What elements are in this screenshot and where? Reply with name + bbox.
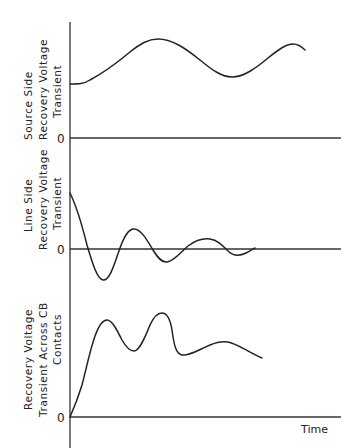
across-cb-curve	[70, 313, 262, 417]
cb-ylabel-line3: Contacts	[51, 314, 63, 365]
line-ylabel-line1: Line Side	[22, 179, 34, 232]
source-zero-label: 0	[57, 132, 65, 146]
source-ylabel-line1: Source Side	[22, 71, 34, 140]
line-side-curve	[70, 193, 255, 280]
source-ylabel-line3: Transient	[51, 65, 63, 119]
cb-ylabel-line1: Recovery Voltage	[22, 309, 34, 410]
line-ylabel-line2: Recovery Voltage	[37, 149, 49, 250]
line-ylabel-line3: Transient	[51, 177, 63, 231]
cb-zero-label: 0	[57, 411, 65, 425]
line-zero-label: 0	[57, 243, 65, 257]
cb-ylabel-line2: Transient Across CB	[37, 302, 49, 418]
time-axis-label: Time	[300, 423, 328, 436]
source-side-curve	[70, 39, 305, 84]
recovery-voltage-diagram: 0 Source Side Recovery Voltage Transient…	[0, 0, 358, 448]
source-ylabel-line2: Recovery Voltage	[37, 39, 49, 140]
